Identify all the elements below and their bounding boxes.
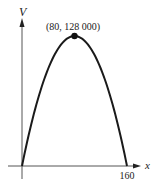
x-axis-arrow-icon [133,164,141,169]
x-axis-label: x [144,159,150,171]
y-axis-label: V [19,5,28,19]
x-tick-160: 160 [120,170,135,181]
vertex-point [71,33,77,39]
chart-canvas: V x 160 (80, 128 000) [0,0,156,183]
vertex-label: (80, 128 000) [46,21,100,33]
parabola-curve [22,36,127,166]
y-axis-arrow-icon [20,18,25,27]
